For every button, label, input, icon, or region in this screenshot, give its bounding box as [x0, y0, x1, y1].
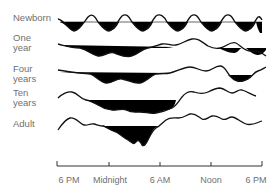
series-newborn — [58, 15, 262, 33]
series-adult — [58, 114, 262, 146]
newborn-wake-line — [58, 15, 262, 31]
axis-label-6am: 6 AM — [150, 175, 171, 185]
one-year-sleep-fill — [60, 45, 266, 57]
newborn-sleep-fill — [60, 22, 262, 33]
time-axis — [57, 161, 262, 166]
sleep-pattern-chart — [0, 0, 276, 191]
four-years-wake-line — [58, 66, 266, 83]
series-ten-years — [58, 88, 256, 113]
axis-label-6pm-end: 6 PM — [245, 175, 266, 185]
axis-label-6pm-start: 6 PM — [58, 175, 79, 185]
series-one-year — [58, 39, 266, 57]
series-four-years — [58, 66, 266, 83]
adult-wake-line — [58, 114, 262, 146]
axis-label-noon: Noon — [200, 175, 222, 185]
axis-label-midnight: Midnight — [93, 175, 127, 185]
